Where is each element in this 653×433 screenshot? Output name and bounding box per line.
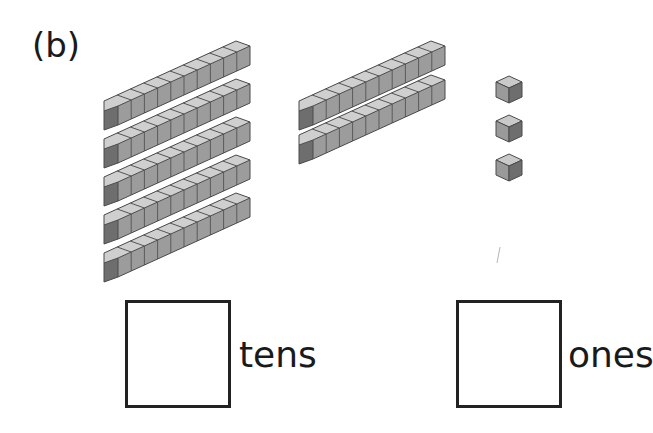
tens-answer-box[interactable] bbox=[125, 300, 231, 408]
unit-cube bbox=[496, 76, 522, 103]
unit-cube bbox=[496, 154, 522, 181]
tens-rods-group-1 bbox=[104, 41, 250, 282]
tens-label: tens bbox=[239, 337, 317, 373]
ones-label: ones bbox=[568, 337, 653, 373]
unit-cubes bbox=[496, 76, 522, 181]
tens-rods-group-2 bbox=[299, 41, 445, 164]
stray-mark bbox=[497, 247, 500, 263]
ones-answer-box[interactable] bbox=[456, 300, 562, 408]
unit-cube bbox=[496, 115, 522, 142]
base-ten-blocks bbox=[0, 0, 653, 300]
